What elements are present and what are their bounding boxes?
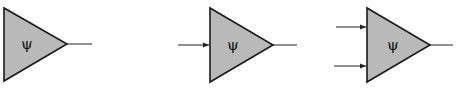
triangle-node-no-input: ψ [4, 8, 92, 81]
triangle-node-one-input: ψ [178, 8, 297, 82]
triangle-icon [210, 8, 273, 82]
triangle-icon [4, 8, 67, 81]
triangle-node-two-inputs: ψ [334, 8, 453, 82]
psi-label: ψ [387, 36, 399, 54]
psi-label: ψ [227, 36, 239, 54]
psi-label: ψ [21, 35, 33, 53]
neuron-diagram: ψ ψ ψ [0, 0, 459, 96]
